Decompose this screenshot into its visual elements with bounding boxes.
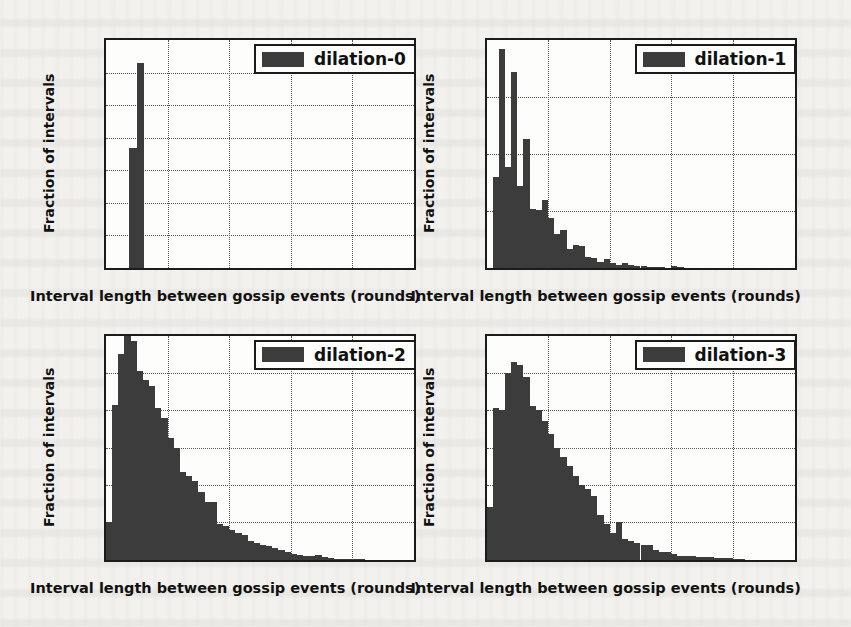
x-tick-mark	[413, 268, 415, 270]
y-tick-label: 0.08	[485, 401, 487, 419]
x-tick-mark	[548, 560, 550, 562]
legend-dilation-2: dilation-2	[254, 340, 416, 370]
legend-swatch-icon	[643, 52, 685, 67]
x-tick-mark	[794, 268, 796, 270]
x-tick-label: 4	[604, 560, 614, 562]
y-tick-label: 0.08	[104, 401, 106, 419]
y-tick-label: 0.04	[104, 476, 106, 494]
y-tick-label: 0.00	[104, 551, 106, 562]
y-tick-label: 0.1	[104, 226, 106, 244]
y-tick-label: 0.05	[485, 202, 487, 220]
x-tick-label: 6	[666, 268, 676, 270]
legend-swatch-icon	[262, 52, 304, 67]
x-tick-mark	[107, 560, 109, 562]
x-tick-label: 8	[347, 268, 357, 270]
y-tick-label: 0.4	[104, 129, 106, 147]
y-tick-label: 0.2	[104, 194, 106, 212]
legend-label: dilation-0	[314, 49, 406, 69]
y-tick-label: 0.3	[104, 161, 106, 179]
bars-dilation-0	[106, 40, 414, 268]
x-tick-mark	[733, 268, 735, 270]
x-tick-label: 2	[162, 560, 172, 562]
histogram-bar	[137, 63, 145, 268]
x-tick-mark	[548, 268, 550, 270]
y-axis-label-dilation-3: Fraction of intervals	[421, 377, 437, 527]
legend-swatch-icon	[643, 347, 685, 362]
x-axis-label-dilation-3: Interval length between gossip events (r…	[411, 580, 801, 596]
legend-label: dilation-3	[695, 345, 787, 365]
legend-label: dilation-2	[314, 345, 406, 365]
x-tick-label: 0	[104, 560, 111, 562]
x-tick-mark	[671, 268, 673, 270]
histogram-bar	[659, 267, 665, 268]
x-tick-mark	[291, 560, 293, 562]
x-tick-mark	[352, 268, 354, 270]
x-tick-mark	[229, 268, 231, 270]
panel-dilation-3: 02468100.000.020.040.060.080.100.12 Frac…	[426, 314, 851, 627]
bars-dilation-1	[487, 40, 795, 268]
x-axis-label-dilation-1: Interval length between gossip events (r…	[411, 288, 801, 304]
x-tick-label: 0	[104, 268, 111, 270]
x-tick-label: 4	[224, 268, 234, 270]
x-tick-mark	[733, 560, 735, 562]
x-tick-label: 2	[162, 268, 172, 270]
x-tick-label: 0	[485, 268, 492, 270]
y-tick-label: 0.6	[104, 64, 106, 82]
y-tick-label: 0.12	[485, 334, 487, 345]
y-tick-label: 0.02	[104, 513, 106, 531]
y-tick-label: 0.00	[485, 259, 487, 270]
y-tick-label: 0.7	[104, 38, 106, 49]
x-tick-mark	[291, 268, 293, 270]
legend-dilation-0: dilation-0	[254, 44, 416, 74]
legend-dilation-3: dilation-3	[635, 340, 797, 370]
legend-swatch-icon	[262, 347, 304, 362]
x-tick-label: 10	[784, 560, 796, 562]
x-tick-label: 10	[404, 560, 416, 562]
x-tick-mark	[610, 560, 612, 562]
panel-dilation-2: 02468100.000.020.040.060.080.100.12 Frac…	[0, 314, 426, 627]
x-axis-label-dilation-2: Interval length between gossip events (r…	[30, 580, 420, 596]
histogram-bar	[359, 559, 365, 560]
y-axis-label-dilation-1: Fraction of intervals	[421, 83, 437, 233]
y-tick-label: 0.00	[485, 551, 487, 562]
y-tick-label: 0.5	[104, 96, 106, 114]
y-tick-label: 0.06	[104, 439, 106, 457]
x-tick-mark	[229, 560, 231, 562]
x-tick-mark	[488, 560, 490, 562]
histogram-bar	[739, 559, 745, 560]
x-tick-label: 2	[543, 560, 553, 562]
x-tick-mark	[671, 560, 673, 562]
x-tick-mark	[488, 268, 490, 270]
y-axis-label-dilation-0: Fraction of intervals	[41, 83, 57, 233]
y-tick-label: 0.02	[485, 513, 487, 531]
x-tick-label: 8	[728, 268, 738, 270]
x-tick-label: 0	[485, 560, 492, 562]
y-tick-label: 0.04	[485, 476, 487, 494]
x-tick-label: 10	[404, 268, 416, 270]
panel-dilation-1: 02468100.000.050.100.150.20 Fraction of …	[426, 0, 851, 314]
x-tick-label: 4	[604, 268, 614, 270]
histogram-bar	[129, 148, 137, 269]
panel-dilation-0: 02468100.00.10.20.30.40.50.60.7 Fraction…	[0, 0, 426, 314]
y-tick-label: 0.10	[485, 364, 487, 382]
x-tick-mark	[107, 268, 109, 270]
x-tick-label: 10	[784, 268, 796, 270]
x-tick-mark	[168, 560, 170, 562]
y-tick-label: 0.10	[485, 145, 487, 163]
x-tick-label: 6	[286, 268, 296, 270]
x-tick-mark	[610, 268, 612, 270]
x-tick-label: 6	[286, 560, 296, 562]
x-tick-label: 2	[543, 268, 553, 270]
x-axis-label-dilation-0: Interval length between gossip events (r…	[30, 288, 420, 304]
x-tick-label: 8	[347, 560, 357, 562]
y-tick-label: 0.12	[104, 334, 106, 345]
histogram-bar	[677, 267, 683, 268]
histogram-figure-grid: 02468100.00.10.20.30.40.50.60.7 Fraction…	[0, 0, 851, 627]
legend-dilation-1: dilation-1	[635, 44, 797, 74]
x-tick-label: 6	[666, 560, 676, 562]
x-tick-label: 8	[728, 560, 738, 562]
y-tick-label: 0.10	[104, 364, 106, 382]
x-tick-mark	[168, 268, 170, 270]
legend-label: dilation-1	[695, 49, 787, 69]
y-tick-label: 0.20	[485, 38, 487, 49]
